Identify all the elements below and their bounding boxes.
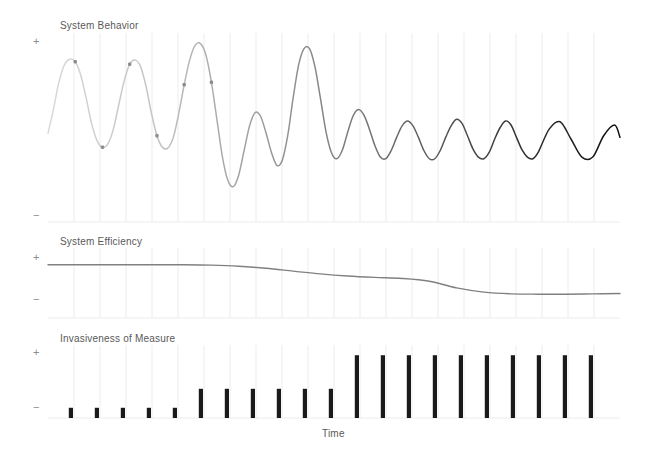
bar [303,389,307,418]
bar [251,389,255,418]
bar [69,408,73,418]
bar [511,355,515,418]
bar [355,355,359,418]
bar [225,389,229,418]
bar [433,355,437,418]
bar [381,355,385,418]
bar [199,389,203,418]
bar [537,355,541,418]
data-point-marker [210,81,213,84]
grid-system-efficiency [48,248,620,318]
bar [589,355,593,418]
bar [407,355,411,418]
bar [459,355,463,418]
data-point-marker [182,83,185,86]
bar [277,389,281,418]
bar [563,355,567,418]
grid-invasiveness [48,345,620,418]
bar [121,408,125,418]
bar [329,389,333,418]
bar [485,355,489,418]
bar [95,408,99,418]
plot-canvas [0,0,646,458]
grid-system-behavior [48,33,620,222]
data-point-marker [155,134,158,137]
data-point-marker [74,60,77,63]
bar [147,408,151,418]
invasiveness-bars [69,355,593,418]
bar [173,408,177,418]
figure-root: System Behavior + − System Efficiency + … [0,0,646,458]
data-point-marker [128,63,131,66]
data-point-marker [101,146,104,149]
